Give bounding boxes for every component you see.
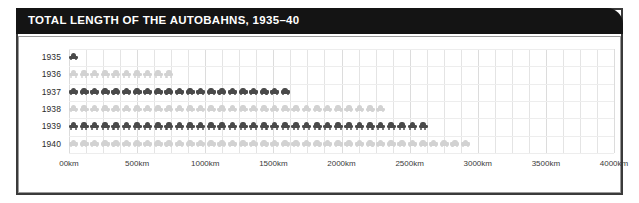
car-icon <box>281 105 290 112</box>
chart-row: 1939 <box>69 118 614 135</box>
car-icon <box>249 140 258 147</box>
car-icon <box>334 105 343 112</box>
car-icon <box>260 105 269 112</box>
car-icon <box>366 140 375 147</box>
car-icon <box>164 70 173 77</box>
car-icon <box>69 122 78 129</box>
car-icon <box>260 88 269 95</box>
car-icon <box>440 140 449 147</box>
car-icon <box>143 70 152 77</box>
car-icon <box>239 105 248 112</box>
car-icon <box>186 105 195 112</box>
car-icon <box>323 122 332 129</box>
pictogram-bar <box>69 88 355 99</box>
car-icon <box>397 140 406 147</box>
car-icon <box>101 122 110 129</box>
car-icon <box>101 88 110 95</box>
car-icon <box>270 122 279 129</box>
car-icon <box>387 122 396 129</box>
car-icon <box>334 122 343 129</box>
car-icon <box>133 105 142 112</box>
car-icon <box>90 140 99 147</box>
car-icon <box>111 88 120 95</box>
x-axis-tick-label: 4000km <box>600 159 628 168</box>
car-icon <box>133 70 142 77</box>
car-icon <box>270 140 279 147</box>
car-icon <box>90 122 99 129</box>
chart-row: 1935 <box>69 49 614 66</box>
car-icon <box>366 122 375 129</box>
chart-rows: 193519361937193819391940 <box>69 49 614 153</box>
chart-row: 1940 <box>69 136 614 153</box>
car-icon <box>111 122 120 129</box>
car-icon <box>133 122 142 129</box>
page-title: TOTAL LENGTH OF THE AUTOBAHNS, 1935–40 <box>28 14 299 26</box>
chart-row: 1936 <box>69 66 614 83</box>
car-icon <box>143 140 152 147</box>
x-axis-tick-label: 00km <box>59 159 79 168</box>
pictogram-bar <box>69 53 83 64</box>
car-icon <box>207 122 216 129</box>
x-axis-tick-label: 1500km <box>259 159 287 168</box>
x-axis-tick-label: 500km <box>125 159 149 168</box>
car-icon <box>217 105 226 112</box>
chart-panel: 193519361937193819391940 00km500km1000km… <box>18 36 621 193</box>
y-axis-tick-label: 1939 <box>42 121 61 131</box>
car-icon <box>143 105 152 112</box>
car-icon <box>175 88 184 95</box>
x-axis-tick-label: 3500km <box>532 159 560 168</box>
car-icon <box>323 140 332 147</box>
car-icon <box>175 122 184 129</box>
car-icon <box>80 140 89 147</box>
x-axis: 00km500km1000km1500km2000km2500km3000km3… <box>69 157 614 175</box>
car-icon <box>334 140 343 147</box>
car-icon <box>239 140 248 147</box>
car-icon <box>90 88 99 95</box>
car-icon <box>154 70 163 77</box>
car-icon <box>239 122 248 129</box>
car-icon <box>260 122 269 129</box>
car-icon <box>90 105 99 112</box>
car-icon <box>376 122 385 129</box>
car-icon <box>133 88 142 95</box>
car-icon <box>249 88 258 95</box>
car-icon <box>80 122 89 129</box>
y-axis-tick-label: 1937 <box>42 87 61 97</box>
car-icon <box>313 140 322 147</box>
car-icon <box>196 105 205 112</box>
car-icon <box>164 122 173 129</box>
car-icon <box>90 70 99 77</box>
car-icon <box>228 122 237 129</box>
car-icon <box>249 122 258 129</box>
car-icon <box>387 140 396 147</box>
car-icon <box>111 140 120 147</box>
car-icon <box>344 140 353 147</box>
car-icon <box>154 88 163 95</box>
car-icon <box>313 105 322 112</box>
y-axis-tick-label: 1938 <box>42 104 61 114</box>
car-icon <box>69 140 78 147</box>
car-icon <box>111 105 120 112</box>
car-icon <box>122 140 131 147</box>
car-icon <box>80 70 89 77</box>
car-icon <box>461 140 470 147</box>
car-icon <box>164 105 173 112</box>
car-icon <box>239 88 248 95</box>
car-icon <box>154 105 163 112</box>
car-icon <box>207 140 216 147</box>
car-icon <box>69 105 78 112</box>
x-axis-tick-label: 3000km <box>464 159 492 168</box>
car-icon <box>291 105 300 112</box>
car-icon <box>313 122 322 129</box>
car-icon <box>122 122 131 129</box>
figure-screenshot: TOTAL LENGTH OF THE AUTOBAHNS, 1935–40 1… <box>0 0 639 203</box>
plot-area: 193519361937193819391940 <box>69 49 614 153</box>
car-icon <box>419 140 428 147</box>
car-icon <box>154 140 163 147</box>
car-icon <box>302 140 311 147</box>
car-icon <box>344 105 353 112</box>
car-icon <box>419 122 428 129</box>
chart-row: 1937 <box>69 84 614 101</box>
car-icon <box>344 122 353 129</box>
car-icon <box>69 88 78 95</box>
